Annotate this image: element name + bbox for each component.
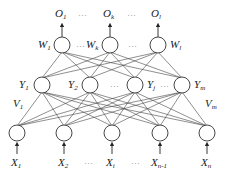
input-node	[199, 125, 215, 141]
hidden-node	[174, 77, 190, 93]
input-label: Xi	[105, 156, 115, 170]
ellipsis: …	[160, 79, 169, 89]
input-node	[104, 125, 120, 141]
ellipsis: …	[78, 8, 87, 18]
output-label: Ol	[151, 7, 161, 21]
input-layer: X1 X2 Xi Xn-1 Xn … …	[9, 125, 215, 170]
weight-label: Wl	[170, 38, 181, 52]
input-label: X2	[57, 156, 69, 170]
output-layer: O1 Ok Ol … … W1 Wk Wl … …	[38, 7, 181, 53]
input-node	[152, 125, 168, 141]
input-label: Xn	[200, 156, 212, 170]
hidden-node	[127, 77, 143, 93]
output-node	[102, 37, 118, 53]
ellipsis: …	[127, 8, 136, 18]
output-label: O1	[55, 7, 66, 21]
hidden-node	[34, 77, 50, 93]
weight-label: Wk	[86, 38, 99, 52]
hidden-label: Ym	[194, 78, 205, 92]
ellipsis: …	[131, 156, 140, 166]
weight-label: V1	[13, 97, 23, 111]
weight-label: W1	[38, 38, 51, 52]
ellipsis: …	[110, 79, 119, 89]
ellipsis: …	[84, 156, 93, 166]
output-node	[150, 37, 166, 53]
input-node	[56, 125, 72, 141]
input-hidden-connections	[17, 92, 207, 126]
hidden-node	[82, 77, 98, 93]
hidden-output-connections	[42, 52, 182, 78]
hidden-label: Y2	[68, 78, 78, 92]
hidden-label: Y1	[19, 78, 29, 92]
ellipsis: …	[76, 39, 85, 49]
weight-label: Vm	[205, 97, 217, 111]
hidden-label: Yj	[147, 78, 155, 92]
output-label: Ok	[103, 7, 115, 21]
output-node	[54, 37, 70, 53]
neural-network-diagram: O1 Ok Ol … … W1 Wk Wl … … Y1 Y2 Yj Ym … …	[0, 0, 225, 176]
input-label: X1	[10, 156, 21, 170]
input-label: Xn-1	[150, 156, 167, 170]
ellipsis: …	[128, 39, 137, 49]
input-node	[9, 125, 25, 141]
